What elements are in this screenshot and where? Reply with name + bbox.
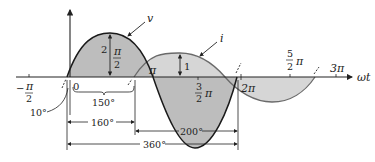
svg-text:π: π [113, 45, 122, 58]
label-two-pi: 2π [240, 82, 256, 95]
v-start-dash [62, 79, 66, 88]
axis-label-wt: ωt [357, 71, 371, 84]
lead-angle-label: 10° [30, 107, 47, 118]
label-160: 160° [91, 117, 114, 128]
bracket-150 [73, 86, 134, 95]
svg-text:3: 3 [196, 81, 202, 92]
svg-text:2: 2 [287, 61, 293, 72]
lead-angle-leader [47, 88, 68, 112]
svg-text:π: π [295, 55, 304, 68]
v-end-dash [236, 63, 241, 73]
diagram-canvas: ωt − π 2 0 π 3 2 π 2π 5 2 π 3π [0, 0, 375, 162]
i-end-dash [314, 67, 319, 74]
label-five-half-pi: 5 2 π [286, 48, 304, 72]
i-start-dash [128, 79, 132, 85]
label-200: 200° [180, 126, 203, 137]
i-pointer-arrow [200, 42, 217, 56]
svg-text:2: 2 [26, 93, 32, 104]
svg-text:2: 2 [114, 59, 120, 70]
v-curve-label: v [147, 12, 154, 25]
svg-text:5: 5 [287, 48, 293, 59]
i-curve-label: i [220, 32, 224, 45]
label-three-pi: 3π [330, 62, 345, 75]
svg-text:2: 2 [196, 93, 202, 104]
label-360: 360° [143, 139, 166, 150]
svg-text:π: π [204, 87, 213, 100]
label-150: 150° [92, 97, 115, 108]
label-pi: π [148, 64, 157, 77]
v-amplitude-value: 2 [101, 44, 107, 55]
v-pointer-arrow [128, 22, 145, 36]
svg-text:−: − [16, 83, 24, 94]
phase-diagram: ωt − π 2 0 π 3 2 π 2π 5 2 π 3π [0, 0, 375, 162]
label-neg-half-pi: − π 2 [16, 80, 34, 104]
svg-text:π: π [25, 80, 34, 93]
i-amplitude-value: 1 [184, 61, 190, 72]
